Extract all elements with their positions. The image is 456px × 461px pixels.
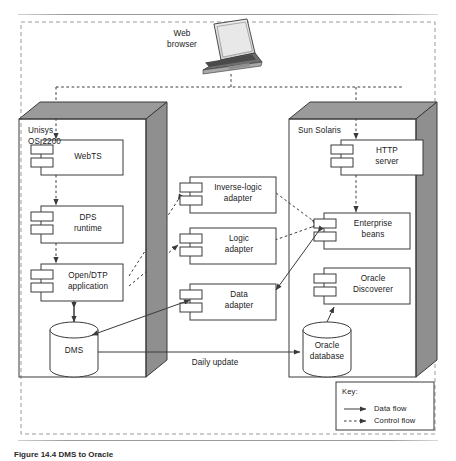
- component-opendtp-label-1: Open/DTP: [52, 271, 124, 280]
- node-unisys-title-1: Unisys: [28, 126, 108, 135]
- datastore-oracle-label-1: Oracle: [297, 341, 357, 350]
- component-opendtp-label-2: application: [52, 282, 124, 291]
- legend-item-data-flow-label: Data flow: [374, 405, 432, 414]
- client-label-line2: browser: [152, 40, 212, 49]
- figure-caption: Figure 14.4 DMS to Oracle: [14, 450, 314, 461]
- component-dps-label-1: DPS: [55, 213, 121, 222]
- datastore-dms-label: DMS: [44, 346, 104, 355]
- node-unisys-title-2: OS 2200: [28, 137, 108, 146]
- component-http-label-2: server: [356, 157, 418, 166]
- datastore-oracle-label-2: database: [297, 352, 357, 361]
- component-discoverer-label-2: Discoverer: [338, 285, 408, 294]
- component-data-label-2: adapter: [204, 301, 274, 310]
- component-dps-label-2: runtime: [55, 224, 121, 233]
- node-solaris-title-1: Sun Solaris: [298, 126, 388, 135]
- component-http-label-1: HTTP: [356, 146, 418, 155]
- component-logic-label-2: adapter: [204, 245, 274, 254]
- edge-label-daily-update: Daily update: [170, 358, 260, 367]
- component-ejb-label-1: Enterprise: [338, 219, 408, 228]
- component-webts-label-1: WebTS: [55, 152, 121, 161]
- component-discoverer-label-1: Oracle: [338, 274, 408, 283]
- legend-title: Key:: [342, 388, 392, 397]
- component-logic-label-1: Logic: [204, 234, 274, 243]
- figure-container: Web browser Unisys OS 2200 Sun Solaris W…: [0, 0, 456, 461]
- component-ejb-label-2: beans: [338, 230, 408, 239]
- component-inverse-logic-label-2: adapter: [202, 194, 274, 203]
- legend-item-control-flow-label: Control flow: [374, 417, 434, 426]
- component-inverse-logic-label-1: Inverse-logic: [202, 183, 274, 192]
- client-label-line1: Web: [152, 29, 212, 38]
- component-data-label-1: Data: [204, 290, 274, 299]
